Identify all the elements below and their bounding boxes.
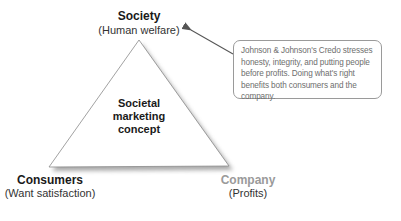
- center-label-line-3: concept: [99, 123, 179, 136]
- vertex-top-subtitle: (Human welfare): [89, 24, 189, 36]
- vertex-top-title: Society: [89, 9, 189, 23]
- callout-text: Johnson & Johnson's Credo stresses hones…: [241, 46, 373, 101]
- center-label-line-2: marketing: [99, 110, 179, 123]
- vertex-left-title: Consumers: [0, 173, 100, 187]
- vertex-right-subtitle: (Profits): [198, 187, 298, 199]
- center-label: Societal marketing concept: [99, 97, 179, 136]
- vertex-left-subtitle: (Want satisfaction): [0, 187, 100, 199]
- callout-arrow: [191, 30, 233, 54]
- callout-box: Johnson & Johnson's Credo stresses hones…: [233, 40, 382, 99]
- center-label-line-1: Societal: [99, 97, 179, 110]
- vertex-right-title: Company: [198, 173, 298, 187]
